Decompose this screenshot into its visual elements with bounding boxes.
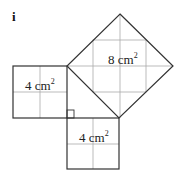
area-text: 8 cm [108, 52, 134, 67]
area-text: 4 cm [25, 78, 51, 93]
right-angle-marker [67, 110, 74, 118]
area-exponent: 2 [51, 77, 55, 86]
area-exponent: 2 [105, 129, 109, 138]
left-square-area: 4 cm2 [25, 78, 55, 94]
bottom-square-area: 4 cm2 [79, 130, 109, 146]
area-text: 4 cm [79, 130, 105, 145]
area-exponent: 2 [134, 51, 138, 60]
hypotenuse-square-area: 8 cm2 [108, 52, 138, 68]
